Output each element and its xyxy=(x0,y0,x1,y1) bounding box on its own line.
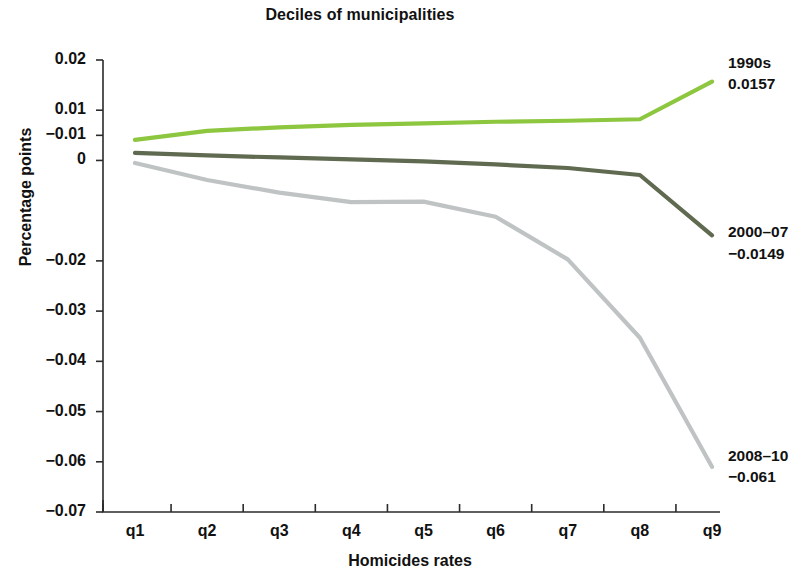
series-annotation-2008-10: 2008–10 −0.061 xyxy=(728,445,788,488)
axis-lines xyxy=(96,60,720,512)
chart-container: Deciles of municipalities Percentage poi… xyxy=(0,0,804,584)
series-annotation-value: 0.0157 xyxy=(728,73,775,94)
series-annotation-label: 1990s xyxy=(728,54,771,71)
series-annotation-label: 2008–10 xyxy=(728,447,788,464)
series-annotation-1990s: 1990s 0.0157 xyxy=(728,52,775,95)
series-lines xyxy=(135,82,712,467)
series-annotation-2000-07: 2000–07 −0.0149 xyxy=(728,221,788,264)
series-line-1 xyxy=(135,153,712,235)
plot-area xyxy=(0,0,804,584)
series-annotation-value: −0.0149 xyxy=(728,243,788,264)
series-annotation-value: −0.061 xyxy=(728,466,788,487)
series-line-0 xyxy=(135,82,712,140)
series-line-2 xyxy=(135,163,712,467)
series-annotation-label: 2000–07 xyxy=(728,223,788,240)
